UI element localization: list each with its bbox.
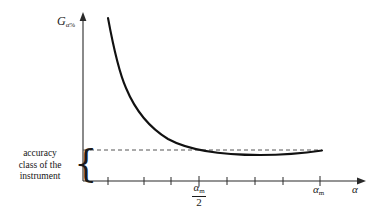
annotation-line-2: class of the (4, 160, 76, 172)
x-tick-label-alpha-m-over-two: αm 2 (186, 182, 212, 208)
annotation-line-3: instrument (4, 171, 76, 183)
fraction-numerator-subscript: m (199, 187, 204, 195)
data-curve (108, 18, 322, 155)
y-axis-arrow-icon (80, 12, 87, 21)
x-tick-label-alpha-m: αm (313, 184, 324, 197)
figure-container: Gα% α αm αm 2 accuracy class of the inst… (0, 0, 377, 221)
y-axis-label: Gα% (57, 15, 75, 30)
fraction-numerator: αm (186, 182, 212, 195)
curly-brace-icon: { (74, 147, 84, 183)
y-axis-label-base: G (57, 14, 66, 28)
accuracy-class-annotation: accuracy class of the instrument (4, 148, 76, 183)
y-axis-label-subscript: α% (66, 21, 75, 29)
fraction-denominator: 2 (186, 197, 212, 208)
annotation-line-1: accuracy (4, 148, 76, 160)
x-axis-arrow-icon (357, 178, 366, 185)
x-tick-alpha-m-subscript: m (319, 189, 324, 197)
x-axis-label: α (352, 184, 358, 196)
